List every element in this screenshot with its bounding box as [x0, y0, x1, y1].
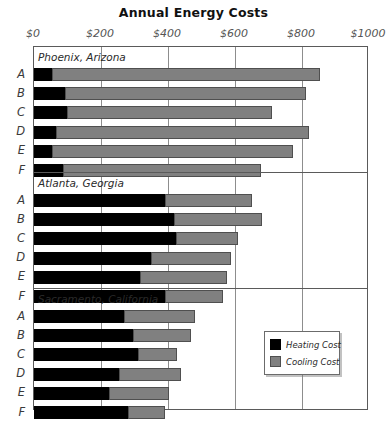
legend-label-heating: Heating Cost [286, 340, 341, 350]
x-axis-tick-labels: $0$200$400$600$800$1000 [0, 27, 387, 43]
bar-segment-heating [34, 406, 128, 419]
chart-legend: Heating Cost Cooling Cost [264, 331, 340, 375]
row-label-f-group-0: F [18, 163, 25, 176]
row-label-d-group-2: D [16, 367, 25, 380]
row-label-b-group-2: B [17, 328, 25, 341]
bar-row [34, 126, 369, 139]
bar-segment-heating [34, 194, 165, 207]
row-label-c-group-1: C [17, 231, 25, 244]
bar-segment-cooling [63, 164, 261, 177]
x-tick-label-0: $0 [26, 27, 40, 40]
chart-title: Annual Energy Costs [0, 5, 387, 20]
bar-segment-heating [34, 164, 63, 177]
bar-row [34, 145, 369, 158]
bar-row [34, 194, 369, 207]
bar-row [34, 387, 369, 400]
row-label-f-group-2: F [18, 405, 25, 418]
bar-segment-cooling [165, 290, 223, 303]
bar-segment-heating [34, 348, 138, 361]
bar-segment-cooling [176, 232, 238, 245]
legend-item-heating: Heating Cost [270, 336, 335, 353]
row-label-a-group-1: A [17, 193, 25, 206]
bar-row [34, 164, 369, 177]
bar-segment-cooling [133, 329, 191, 342]
bar-segment-cooling [119, 368, 181, 381]
bar-segment-cooling [128, 406, 165, 419]
bar-segment-cooling [56, 126, 309, 139]
bar-segment-cooling [151, 252, 231, 265]
bar-segment-heating [34, 126, 56, 139]
bar-segment-cooling [124, 310, 195, 323]
bar-segment-heating [34, 213, 174, 226]
x-tick-label-200: $200 [86, 27, 114, 40]
row-label-c-group-2: C [17, 347, 25, 360]
legend-item-cooling: Cooling Cost [270, 353, 335, 370]
row-label-a-group-2: A [17, 309, 25, 322]
bar-segment-heating [34, 310, 124, 323]
bar-segment-cooling [67, 106, 272, 119]
group-title-0: Phoenix, Arizona [38, 51, 126, 63]
bar-row [34, 87, 369, 100]
category-row-labels: ABCDEFABCDEFABCDEF [0, 46, 33, 410]
group-separator-2 [34, 288, 367, 289]
x-tick-label-1000: $1000 [351, 27, 386, 40]
row-label-e-group-2: E [18, 386, 25, 399]
bar-segment-cooling [52, 68, 320, 81]
bar-segment-heating [34, 106, 67, 119]
bar-segment-heating [34, 387, 109, 400]
bar-segment-cooling [52, 145, 293, 158]
bar-segment-heating [34, 68, 52, 81]
row-label-c-group-0: C [17, 105, 25, 118]
legend-label-cooling: Cooling Cost [286, 357, 339, 367]
bar-row [34, 68, 369, 81]
bar-segment-heating [34, 329, 133, 342]
row-label-e-group-0: E [18, 144, 25, 157]
x-tick-label-600: $600 [220, 27, 248, 40]
bar-row [34, 252, 369, 265]
bar-segment-cooling [174, 213, 262, 226]
row-label-f-group-1: F [18, 289, 25, 302]
group-title-1: Atlanta, Georgia [38, 177, 124, 189]
group-separator-1 [34, 172, 367, 173]
bar-segment-cooling [138, 348, 177, 361]
legend-swatch-cooling-icon [270, 356, 281, 367]
bar-segment-cooling [165, 194, 252, 207]
bar-row [34, 310, 369, 323]
bar-segment-heating [34, 232, 176, 245]
bar-row [34, 213, 369, 226]
row-label-d-group-0: D [16, 125, 25, 138]
bar-row [34, 106, 369, 119]
x-tick-label-400: $400 [153, 27, 181, 40]
row-label-a-group-0: A [17, 67, 25, 80]
bar-segment-heating [34, 87, 65, 100]
bar-segment-cooling [140, 271, 227, 284]
row-label-b-group-1: B [17, 212, 25, 225]
bar-segment-cooling [109, 387, 169, 400]
bar-segment-cooling [65, 87, 306, 100]
bar-segment-heating [34, 368, 119, 381]
bar-row [34, 232, 369, 245]
legend-swatch-heating-icon [270, 339, 281, 350]
row-label-b-group-0: B [17, 86, 25, 99]
bar-segment-heating [34, 252, 151, 265]
x-tick-label-800: $800 [287, 27, 315, 40]
group-title-2: Sacramento, California [38, 293, 158, 305]
bar-segment-heating [34, 145, 52, 158]
row-label-e-group-1: E [18, 270, 25, 283]
bar-segment-heating [34, 271, 140, 284]
bar-row [34, 271, 369, 284]
bar-row [34, 406, 369, 419]
row-label-d-group-1: D [16, 251, 25, 264]
